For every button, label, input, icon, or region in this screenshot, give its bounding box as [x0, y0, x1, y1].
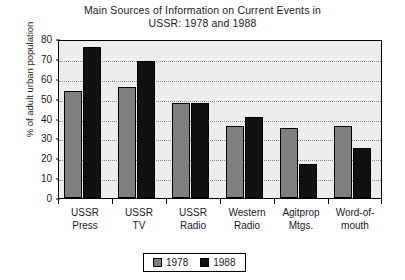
x-axis-ticks — [58, 199, 382, 205]
x-tick-mark — [328, 199, 329, 204]
x-axis-label-line-2: Radio — [166, 219, 220, 232]
chart-title: Main Sources of Information on Current E… — [0, 4, 405, 30]
x-axis-label-line-1: USSR — [125, 207, 153, 218]
bar-1978-ussr-press[interactable] — [64, 91, 82, 198]
bar-1988-ussr-press[interactable] — [83, 47, 101, 198]
x-axis-label-line-1: USSR — [179, 207, 207, 218]
x-tick-mark — [381, 199, 382, 204]
bar-chart: Main Sources of Information on Current E… — [0, 0, 405, 280]
x-tick-mark — [112, 199, 113, 204]
bar-group — [113, 41, 167, 198]
bar-1988-ussr-tv[interactable] — [137, 61, 155, 198]
x-axis-label-line-1: USSR — [71, 207, 99, 218]
bars-layer — [59, 41, 381, 198]
bar-group — [329, 41, 383, 198]
legend-label-1988: 1988 — [213, 258, 235, 268]
y-tick-label: 10 — [22, 174, 52, 184]
chart-legend: 19781988 — [143, 253, 246, 272]
x-tick-mark — [58, 199, 59, 204]
x-axis-labels: USSRPressUSSRTVUSSRRadioWesternRadioAgit… — [58, 206, 382, 240]
bar-1988-word-of-mouth[interactable] — [353, 148, 371, 198]
legend-item-1978[interactable]: 1978 — [153, 258, 188, 268]
y-tick-label: 40 — [22, 115, 52, 125]
x-tick-mark — [220, 199, 221, 204]
bar-group — [59, 41, 113, 198]
x-axis-label-ussr-press: USSRPress — [58, 206, 112, 232]
x-axis-label-line-2: mouth — [328, 219, 382, 232]
bar-1988-agitprop-mtgs[interactable] — [299, 164, 317, 198]
bar-1978-ussr-radio[interactable] — [172, 103, 190, 198]
chart-title-line-2: USSR: 1978 and 1988 — [0, 17, 405, 30]
y-tick-label: 30 — [22, 134, 52, 144]
bar-1978-western-radio[interactable] — [226, 126, 244, 198]
y-tick-label: 70 — [22, 55, 52, 65]
x-axis-label-word-of-mouth: Word-of-mouth — [328, 206, 382, 232]
x-axis-label-line-2: TV — [112, 219, 166, 232]
y-tick-label: 0 — [22, 194, 52, 204]
plot-area — [58, 40, 382, 199]
bar-group — [275, 41, 329, 198]
x-axis-label-line-2: Radio — [220, 219, 274, 232]
x-axis-label-line-2: Mtgs. — [274, 219, 328, 232]
bar-group — [221, 41, 275, 198]
chart-title-line-1: Main Sources of Information on Current E… — [84, 4, 321, 16]
x-tick-mark — [166, 199, 167, 204]
x-axis-label-ussr-radio: USSRRadio — [166, 206, 220, 232]
x-axis-label-line-1: Western — [228, 207, 265, 218]
x-axis-label-ussr-tv: USSRTV — [112, 206, 166, 232]
bar-1988-western-radio[interactable] — [245, 117, 263, 198]
y-axis-ticks: 80706050403020100 — [22, 40, 52, 199]
bar-1988-ussr-radio[interactable] — [191, 103, 209, 198]
bar-1978-ussr-tv[interactable] — [118, 87, 136, 198]
bar-group — [167, 41, 221, 198]
x-axis-label-line-2: Press — [58, 219, 112, 232]
y-tick-label: 20 — [22, 154, 52, 164]
bar-1978-word-of-mouth[interactable] — [334, 126, 352, 198]
bar-1978-agitprop-mtgs[interactable] — [280, 128, 298, 198]
legend-item-1988[interactable]: 1988 — [200, 258, 235, 268]
y-tick-label: 50 — [22, 95, 52, 105]
x-axis-label-line-1: Word-of- — [336, 207, 375, 218]
legend-label-1978: 1978 — [166, 258, 188, 268]
y-tick-label: 80 — [22, 35, 52, 45]
legend-swatch-1978 — [153, 258, 162, 267]
x-tick-mark — [274, 199, 275, 204]
y-tick-label: 60 — [22, 75, 52, 85]
x-axis-label-agitprop-mtgs: AgitpropMtgs. — [274, 206, 328, 232]
legend-swatch-1988 — [200, 258, 209, 267]
x-axis-label-western-radio: WesternRadio — [220, 206, 274, 232]
x-axis-label-line-1: Agitprop — [282, 207, 319, 218]
